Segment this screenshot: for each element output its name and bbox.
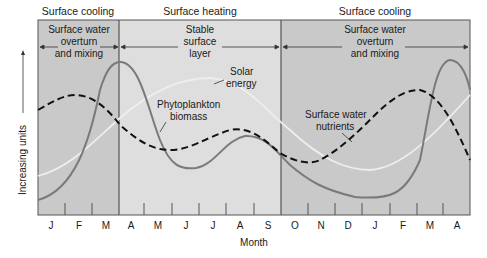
svg-text:M: M xyxy=(102,220,110,231)
phase-label-surface-cooling-1: Surface cooling xyxy=(42,5,115,17)
phase2-line2: surface xyxy=(184,36,217,47)
x-axis-label: Month xyxy=(240,237,268,248)
y-axis-label-group: Increasing units xyxy=(17,50,28,195)
svg-text:J: J xyxy=(373,220,378,231)
svg-text:J: J xyxy=(184,220,189,231)
solar-label-1: Solar xyxy=(230,66,254,77)
svg-text:S: S xyxy=(265,220,272,231)
svg-text:M: M xyxy=(154,220,162,231)
svg-text:F: F xyxy=(76,220,82,231)
y-axis-label: Increasing units xyxy=(17,125,28,195)
svg-text:D: D xyxy=(344,220,351,231)
phyto-label-1: Phytoplankton xyxy=(157,99,220,110)
phase-label-surface-cooling-2: Surface cooling xyxy=(339,5,412,17)
nutrients-label-2: nutrients xyxy=(316,121,354,132)
phase2-line3: layer xyxy=(189,48,211,59)
svg-text:N: N xyxy=(317,220,324,231)
phase2-line1: Stable xyxy=(186,24,215,35)
phyto-label-2: biomass xyxy=(170,111,207,122)
svg-text:J: J xyxy=(211,220,216,231)
svg-text:A: A xyxy=(454,220,461,231)
solar-label-2: energy xyxy=(226,78,257,89)
ocean-seasonal-cycle-diagram: Surface cooling Surface heating Surface … xyxy=(0,0,487,258)
phase1-line2: overturn xyxy=(61,36,98,47)
phase3-line1: Surface water xyxy=(344,24,406,35)
svg-text:J: J xyxy=(49,220,54,231)
phase1-line3: and mixing xyxy=(55,48,103,59)
svg-text:M: M xyxy=(426,220,434,231)
phase-label-surface-heating: Surface heating xyxy=(163,5,237,17)
phase3-line2: overturn xyxy=(357,36,394,47)
svg-text:A: A xyxy=(237,220,244,231)
svg-text:F: F xyxy=(400,220,406,231)
svg-text:A: A xyxy=(128,220,135,231)
x-tick-labels: J F M A M J J A S O N D J F M A xyxy=(49,220,461,231)
svg-text:O: O xyxy=(291,220,299,231)
nutrients-label-1: Surface water xyxy=(305,109,367,120)
phase3-line3: and mixing xyxy=(351,48,399,59)
phase1-line1: Surface water xyxy=(48,24,110,35)
